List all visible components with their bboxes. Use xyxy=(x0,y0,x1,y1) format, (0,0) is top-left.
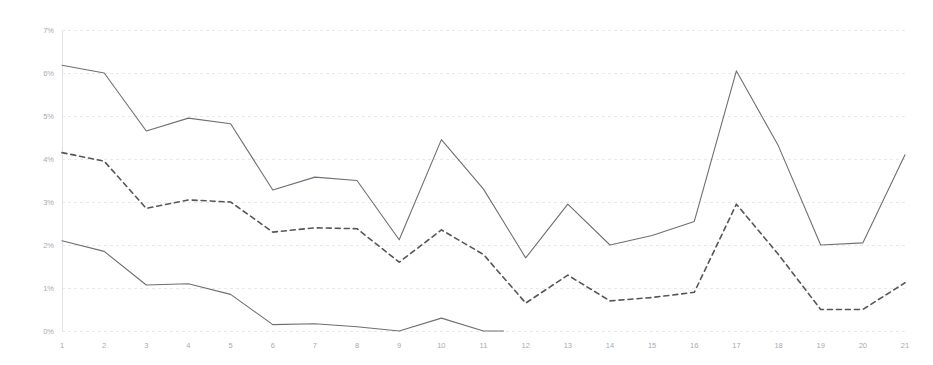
x-tick-label: 21 xyxy=(901,341,909,350)
x-tick-label: 12 xyxy=(521,341,529,350)
x-tick-label: 2 xyxy=(102,341,106,350)
x-tick-label: 3 xyxy=(144,341,148,350)
x-tick-label: 7 xyxy=(313,341,317,350)
x-tick-label: 8 xyxy=(355,341,359,350)
x-tick-label: 1 xyxy=(60,341,64,350)
y-tick-label: 2% xyxy=(43,241,54,250)
x-tick-label: 6 xyxy=(271,341,275,350)
y-tick-label: 4% xyxy=(43,155,54,164)
x-tick-label: 18 xyxy=(774,341,782,350)
x-tick-label: 20 xyxy=(859,341,867,350)
y-tick-label: 0% xyxy=(43,327,54,336)
y-tick-label: 6% xyxy=(43,69,54,78)
y-tick-label: 1% xyxy=(43,284,54,293)
data-series-group xyxy=(62,65,905,331)
x-tick-label: 11 xyxy=(480,341,488,350)
y-tick-label: 3% xyxy=(43,198,54,207)
x-tick-label: 16 xyxy=(690,341,698,350)
series-line-median xyxy=(62,153,905,310)
series-line-lower-bound xyxy=(62,241,504,331)
x-tick-label: 4 xyxy=(186,341,190,350)
line-chart: 0%1%2%3%4%5%6%7% 12345678910111213141516… xyxy=(0,0,933,365)
x-tick-label: 14 xyxy=(606,341,614,350)
x-tick-label: 5 xyxy=(229,341,233,350)
grid-lines xyxy=(62,30,905,331)
y-tick-label: 5% xyxy=(43,112,54,121)
x-tick-label: 15 xyxy=(648,341,656,350)
x-tick-label: 19 xyxy=(817,341,825,350)
y-axis-tick-labels: 0%1%2%3%4%5%6%7% xyxy=(43,26,54,336)
series-line-upper-bound xyxy=(62,65,905,258)
x-tick-label: 9 xyxy=(397,341,401,350)
x-tick-label: 10 xyxy=(437,341,445,350)
chart-canvas: 0%1%2%3%4%5%6%7% 12345678910111213141516… xyxy=(0,0,933,365)
y-tick-label: 7% xyxy=(43,26,54,35)
x-tick-label: 17 xyxy=(732,341,740,350)
x-tick-label: 13 xyxy=(564,341,572,350)
x-axis-tick-labels: 123456789101112131415161718192021 xyxy=(60,341,909,350)
